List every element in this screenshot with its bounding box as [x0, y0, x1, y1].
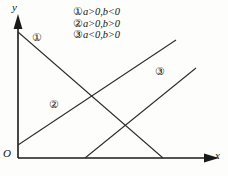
legend-item: ②a>0,b>0	[73, 18, 120, 30]
line-2	[18, 40, 176, 145]
line-2-tag: ②	[49, 99, 59, 110]
legend-item: ①a>0,b<0	[73, 6, 120, 18]
legend-item-expression: a>0,b<0	[83, 6, 120, 17]
arrow-up-icon	[14, 14, 23, 29]
legend-item-marker: ①	[73, 6, 83, 17]
legend-item-expression: a<0,b>0	[83, 29, 120, 40]
linear-functions-figure: y x O ① ② ③ ①a>0,b<0 ②a>0,b>0 ③a<0,b>0	[0, 0, 228, 176]
legend-item: ③a<0,b>0	[73, 29, 120, 41]
legend-item-marker: ②	[73, 18, 83, 29]
x-axis-label: x	[215, 150, 220, 161]
origin-label: O	[3, 148, 11, 159]
line-3	[85, 68, 196, 158]
legend: ①a>0,b<0 ②a>0,b>0 ③a<0,b>0	[73, 6, 120, 41]
y-axis-label: y	[12, 2, 17, 13]
legend-item-expression: a>0,b>0	[83, 18, 120, 29]
line-1-tag: ①	[32, 32, 42, 43]
line-3-tag: ③	[155, 66, 165, 77]
line-1	[18, 32, 163, 158]
legend-item-marker: ③	[73, 29, 83, 40]
